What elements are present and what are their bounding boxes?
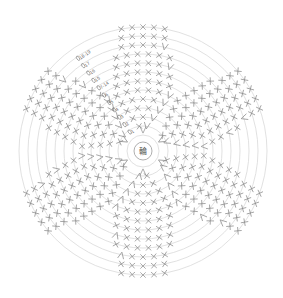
single-crochet-x-icon <box>57 119 63 125</box>
single-crochet-x-icon <box>234 171 240 177</box>
single-crochet-x-icon <box>226 104 232 110</box>
single-crochet-x-icon <box>113 241 119 247</box>
single-crochet-x-icon <box>43 191 49 197</box>
single-crochet-x-icon <box>46 214 53 221</box>
single-crochet-x-icon <box>124 108 130 114</box>
single-crochet-x-icon <box>197 108 204 115</box>
single-crochet-x-icon <box>31 110 37 116</box>
single-crochet-x-icon <box>95 174 102 181</box>
single-crochet-x-icon <box>237 105 243 111</box>
single-crochet-x-icon <box>48 95 55 102</box>
single-crochet-x-icon <box>244 100 250 106</box>
single-crochet-x-icon <box>110 165 117 172</box>
single-crochet-x-icon <box>185 174 192 181</box>
magic-ring-label: 輪 <box>139 146 147 156</box>
single-crochet-x-icon <box>105 198 112 205</box>
single-crochet-x-icon <box>59 95 66 102</box>
single-crochet-x-icon <box>256 106 262 112</box>
single-crochet-x-icon <box>213 99 220 106</box>
single-crochet-x-icon <box>241 219 248 226</box>
single-crochet-x-icon <box>203 178 209 184</box>
single-crochet-x-icon <box>150 180 156 186</box>
round-number-label: 2 <box>125 121 130 127</box>
single-crochet-x-icon <box>247 210 254 217</box>
single-crochet-x-icon <box>189 132 195 138</box>
single-crochet-x-icon <box>174 97 181 104</box>
single-crochet-x-icon <box>199 133 205 139</box>
single-crochet-x-icon <box>219 109 225 115</box>
single-crochet-x-icon <box>167 232 173 238</box>
single-crochet-x-icon <box>46 171 52 177</box>
single-crochet-x-icon <box>113 55 119 61</box>
single-crochet-x-icon <box>169 165 176 172</box>
single-crochet-x-icon <box>197 187 204 194</box>
single-crochet-x-icon <box>167 74 173 80</box>
single-crochet-x-icon <box>95 122 102 129</box>
round-label: 6 <box>101 92 109 98</box>
single-crochet-x-icon <box>119 100 125 106</box>
single-crochet-x-icon <box>223 119 229 125</box>
single-crochet-x-icon <box>38 76 45 83</box>
single-crochet-x-icon <box>74 192 81 199</box>
single-crochet-x-icon <box>23 106 29 112</box>
single-crochet-x-icon <box>100 131 106 137</box>
single-crochet-x-icon <box>61 187 67 193</box>
single-crochet-x-icon <box>207 128 213 134</box>
single-crochet-x-icon <box>231 114 237 120</box>
single-crochet-x-icon <box>244 196 250 202</box>
single-crochet-x-icon <box>124 89 130 95</box>
single-crochet-x-icon <box>231 182 237 188</box>
single-crochet-x-icon <box>100 164 106 170</box>
single-crochet-x-icon <box>39 115 45 121</box>
single-crochet-x-icon <box>166 203 172 209</box>
center-magic-ring: 輪 <box>134 142 152 160</box>
single-crochet-x-icon <box>32 86 39 93</box>
round-number-label: 5 <box>109 99 114 105</box>
single-crochet-x-icon <box>161 195 167 201</box>
single-crochet-x-icon <box>252 95 258 101</box>
single-crochet-x-icon <box>167 55 173 61</box>
single-crochet-x-icon <box>48 201 55 208</box>
single-crochet-x-icon <box>169 131 176 138</box>
round-label: 2 <box>122 121 130 127</box>
single-crochet-x-icon <box>35 100 41 106</box>
single-crochet-x-icon <box>27 200 33 206</box>
single-crochet-x-icon <box>31 186 37 192</box>
single-crochet-x-icon <box>81 133 87 139</box>
single-crochet-x-icon <box>23 190 29 196</box>
single-crochet-x-icon <box>226 191 232 197</box>
single-crochet-x-icon <box>59 201 66 208</box>
increase-v-icon <box>113 202 121 210</box>
single-crochet-x-icon <box>226 210 233 217</box>
single-crochet-x-icon <box>113 64 119 70</box>
single-crochet-x-icon <box>84 122 90 128</box>
single-crochet-x-icon <box>241 76 248 83</box>
single-crochet-x-icon <box>124 216 130 222</box>
single-crochet-x-icon <box>233 214 240 221</box>
single-crochet-x-icon <box>91 164 97 170</box>
round-number-label: 7-14 <box>99 80 110 90</box>
round-number-label: 1 <box>130 128 135 134</box>
single-crochet-x-icon <box>156 80 162 86</box>
single-crochet-x-icon <box>110 131 117 138</box>
single-crochet-x-icon <box>226 86 233 93</box>
round-label: 1 <box>127 128 135 134</box>
single-crochet-x-icon <box>156 216 162 222</box>
single-crochet-x-icon <box>213 196 220 203</box>
single-crochet-x-icon <box>185 122 192 129</box>
single-crochet-x-icon <box>54 210 61 217</box>
increase-v-icon <box>155 107 163 115</box>
round-number-label: 3 <box>120 114 125 120</box>
single-crochet-x-icon <box>205 192 212 199</box>
round-number-label: 16 <box>89 68 97 75</box>
single-crochet-x-icon <box>237 191 243 197</box>
single-crochet-x-icon <box>61 109 67 115</box>
single-crochet-x-icon <box>124 207 130 213</box>
single-crochet-x-icon <box>65 173 71 179</box>
single-crochet-x-icon <box>189 164 195 170</box>
single-crochet-x-icon <box>166 83 172 89</box>
single-crochet-x-icon <box>252 200 258 206</box>
single-crochet-x-icon <box>156 207 162 213</box>
single-crochet-x-icon <box>211 113 217 119</box>
single-crochet-x-icon <box>54 86 61 93</box>
